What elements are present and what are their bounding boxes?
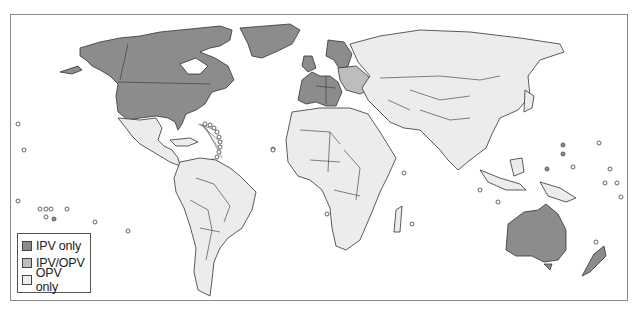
map-legend: IPV only IPV/OPV OPV only bbox=[17, 233, 91, 293]
legend-label: OPV only bbox=[36, 266, 86, 294]
legend-item-ipv-only: IPV only bbox=[22, 237, 86, 254]
region-oceania bbox=[506, 204, 606, 276]
legend-swatch-ipv-only bbox=[22, 241, 32, 251]
region-southeast-asia bbox=[480, 158, 576, 202]
world-map bbox=[0, 0, 638, 312]
region-north-america bbox=[60, 24, 300, 130]
region-africa bbox=[286, 108, 402, 250]
legend-item-opv-only: OPV only bbox=[22, 271, 86, 288]
legend-swatch-ipv-opv bbox=[22, 258, 32, 268]
legend-swatch-opv-only bbox=[22, 275, 32, 285]
legend-label: IPV only bbox=[36, 239, 81, 253]
region-south-america bbox=[174, 158, 256, 296]
